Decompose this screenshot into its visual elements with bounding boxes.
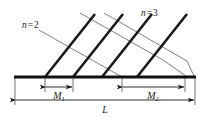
thin-diagonal-to-baseline [163, 60, 186, 76]
thin-diagonal-group [39, 13, 187, 77]
thin-diagonal-to-baseline-2 [187, 61, 194, 76]
label-n2: n=2 [22, 20, 39, 30]
diagram-canvas: n=2 n=3 M1 M2 L [0, 0, 208, 118]
label-m1: M1 [52, 90, 65, 102]
label-n2-var: n [22, 20, 27, 30]
label-n2-eq: = [28, 20, 33, 30]
label-m2-sub: 2 [156, 95, 160, 102]
label-n3: n=3 [141, 8, 158, 18]
label-l: L [101, 104, 108, 115]
label-m1-sub: 1 [62, 95, 65, 102]
label-n3-eq: = [147, 8, 152, 18]
thick-diagonal-1 [45, 14, 95, 77]
label-n2-value: 2 [34, 20, 39, 30]
label-m2: M2 [146, 90, 159, 102]
extension-tick-group [15, 78, 195, 105]
label-n3-var: n [141, 8, 146, 18]
label-n3-value: 3 [153, 8, 158, 18]
figure-container: n=2 n=3 M1 M2 L [0, 0, 208, 118]
